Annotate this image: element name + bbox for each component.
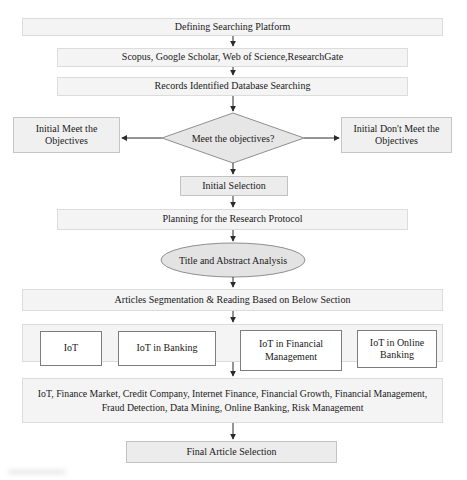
title-abstract-analysis-label: Title and Abstract Analysis xyxy=(162,250,304,270)
node-articles-segmentation: Articles Segmentation & Reading Based on… xyxy=(22,289,443,311)
decision-label: Meet the objectives? xyxy=(168,126,298,150)
node-initial-selection: Initial Selection xyxy=(180,176,288,196)
caption-fragment xyxy=(8,469,66,475)
node-initial-meet-objectives: Initial Meet the Objectives xyxy=(13,117,120,153)
node-initial-dont-meet-objectives: Initial Don't Meet the Objectives xyxy=(341,117,452,153)
node-records-identified: Records Identified Database Searching xyxy=(57,77,408,96)
node-category-iot-online-banking: IoT in Online Banking xyxy=(357,330,437,368)
node-keywords-list: IoT, Finance Market, Credit Company, Int… xyxy=(22,378,443,423)
node-final-article-selection: Final Article Selection xyxy=(126,441,337,463)
node-category-iot: IoT xyxy=(40,331,102,366)
node-category-iot-banking: IoT in Banking xyxy=(118,331,216,366)
node-planning-research-protocol: Planning for the Research Protocol xyxy=(57,209,408,230)
node-category-iot-financial-management: IoT in Financial Management xyxy=(240,330,342,371)
flowchart-canvas: Defining Searching Platform Scopus, Goog… xyxy=(0,0,467,480)
node-search-platform-list: Scopus, Google Scholar, Web of Science,R… xyxy=(57,48,408,67)
node-defining-searching-platform: Defining Searching Platform xyxy=(22,18,443,36)
